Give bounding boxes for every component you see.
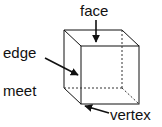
edge-label: edge — [3, 45, 36, 60]
edge-arrow — [45, 58, 78, 75]
arrows — [45, 20, 109, 113]
vertex-label: vertex — [110, 107, 151, 122]
vertex-arrow — [85, 106, 109, 113]
cube-diagram: face edge meet vertex — [0, 0, 162, 127]
meet-label: meet — [3, 83, 36, 98]
cube-solid-edges — [64, 30, 139, 104]
face-label: face — [80, 3, 108, 18]
